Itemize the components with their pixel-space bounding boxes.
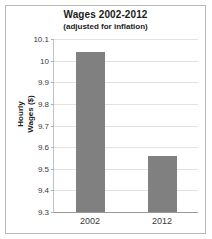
y-axis-tick-mark (51, 212, 54, 213)
y-axis-tick-mark (51, 82, 54, 83)
chart-subtitle: (adjusted for inflation) (6, 21, 205, 32)
gridline (54, 39, 198, 40)
y-axis-tick-label: 9.3 (38, 208, 49, 217)
y-axis-title-line2: Wages ($) (26, 76, 36, 152)
y-axis-tick-label: 10.1 (33, 35, 49, 44)
chart-screenshot: Wages 2002-2012 (adjusted for inflation)… (0, 0, 212, 239)
y-axis-tick-label: 9.7 (38, 121, 49, 130)
y-axis-tick-mark (51, 61, 54, 62)
y-axis-tick-label: 10 (40, 56, 49, 65)
y-axis-tick-mark (51, 190, 54, 191)
y-axis-title-line1: Hourly (16, 76, 26, 152)
y-axis-tick-label: 9.5 (38, 164, 49, 173)
y-axis-tick-label: 9.4 (38, 186, 49, 195)
plot-area: 9.39.49.59.69.79.89.91010.120022012 (53, 39, 198, 213)
chart-frame: Wages 2002-2012 (adjusted for inflation)… (5, 5, 206, 234)
y-axis-tick-label: 9.9 (38, 78, 49, 87)
y-axis-title: Hourly Wages ($) (16, 76, 40, 152)
chart-title: Wages 2002-2012 (6, 9, 205, 21)
y-axis-tick-mark (51, 126, 54, 127)
y-axis-tick-mark (51, 169, 54, 170)
y-axis-tick-label: 9.6 (38, 143, 49, 152)
bar-2002 (76, 52, 105, 212)
x-axis-label-2012: 2012 (152, 216, 172, 226)
y-axis-tick-mark (51, 104, 54, 105)
y-axis-tick-mark (51, 147, 54, 148)
x-axis-label-2002: 2002 (80, 216, 100, 226)
y-axis-tick-label: 9.8 (38, 99, 49, 108)
bar-2012 (148, 156, 177, 212)
chart-title-block: Wages 2002-2012 (adjusted for inflation) (6, 9, 205, 32)
y-axis-tick-mark (51, 39, 54, 40)
